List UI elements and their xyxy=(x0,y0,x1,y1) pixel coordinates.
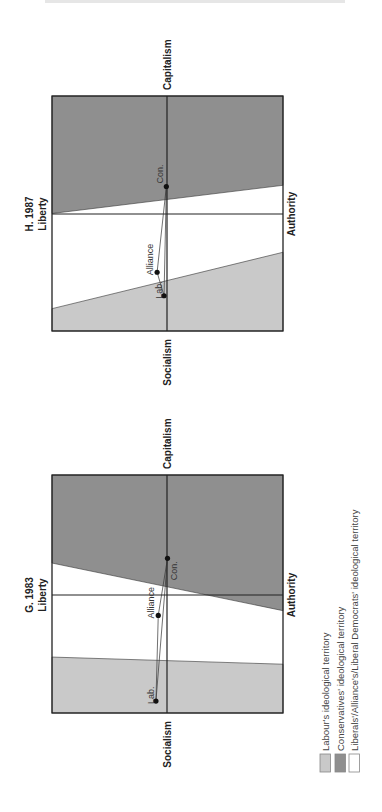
party-point-con xyxy=(164,184,169,189)
legend-label-labour: Labour's ideological territory xyxy=(320,632,331,751)
party-label-con: Con. xyxy=(155,164,165,183)
panel-g-1983: Con.AllianceLab.CapitalismSocialismLiber… xyxy=(24,418,297,767)
panel-title: G. 1983 xyxy=(24,577,35,613)
axis-label-socialism: Socialism xyxy=(162,721,173,768)
panel-h-1987: Con.AllianceLab.CapitalismSocialismLiber… xyxy=(24,39,297,385)
legend-swatch-labour xyxy=(320,754,331,772)
axis-label-liberty: Liberty xyxy=(37,578,48,612)
axis-label-authority: Authority xyxy=(286,572,297,617)
party-label-con: Con. xyxy=(170,561,180,580)
party-point-alliance xyxy=(155,270,160,275)
legend-swatch-conservative xyxy=(335,754,346,772)
figure: Con.AllianceLab.CapitalismSocialismLiber… xyxy=(0,0,382,812)
legend-swatch-liberal xyxy=(349,754,360,772)
party-label-alliance: Alliance xyxy=(145,244,155,276)
axis-label-capitalism: Capitalism xyxy=(162,418,173,469)
panel-title: H. 1987 xyxy=(24,196,35,231)
legend: Labour's ideological territoryConservati… xyxy=(320,509,360,772)
axis-label-authority: Authority xyxy=(286,191,297,236)
legend-label-conservative: Conservatives' ideological territory xyxy=(335,606,346,751)
axis-label-liberty: Liberty xyxy=(37,197,48,231)
party-point-con xyxy=(165,556,170,561)
axis-label-capitalism: Capitalism xyxy=(162,39,173,90)
axis-label-socialism: Socialism xyxy=(162,339,173,386)
running-header-bar xyxy=(45,0,345,3)
party-label-alliance: Alliance xyxy=(146,587,156,619)
party-point-alliance xyxy=(156,613,161,618)
party-label-lab: Lab. xyxy=(146,687,156,705)
party-label-lab: Lab. xyxy=(154,281,164,299)
legend-label-liberal: Liberals'/Alliance's/Liberal Democrats' … xyxy=(349,509,360,751)
